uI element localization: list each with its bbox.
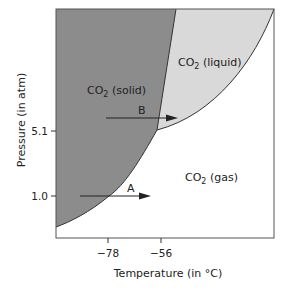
x-tick-label-minus-78: −78 <box>97 247 119 259</box>
gas-label: CO2 (gas) <box>185 171 238 186</box>
y-tick-label-5-1: 5.1 <box>31 125 48 137</box>
x-tick-label-minus-56: −56 <box>150 247 172 259</box>
arrow-a-label: A <box>127 182 135 195</box>
phase-diagram: CO2 (solid) CO2 (liquid) CO2 (gas) A B 5… <box>0 0 294 297</box>
liquid-label: CO2 (liquid) <box>178 56 242 71</box>
arrow-b-label: B <box>138 104 146 117</box>
x-axis-label: Temperature (in °C) <box>113 267 222 280</box>
y-tick-label-1-0: 1.0 <box>31 190 48 202</box>
solid-label: CO2 (solid) <box>87 84 146 99</box>
y-axis-label: Pressure (in atm) <box>15 73 28 167</box>
